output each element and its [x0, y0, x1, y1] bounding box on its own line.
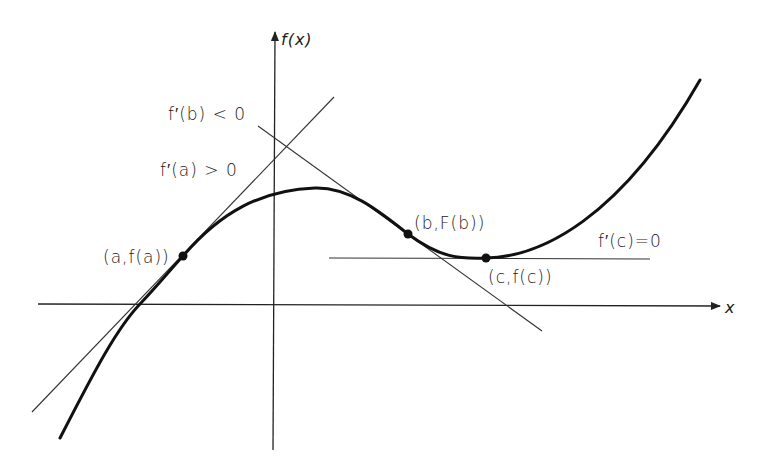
- point-label-b: (b,F(b)): [414, 213, 485, 233]
- point-c: [482, 254, 491, 263]
- tangent-label-c: f′(c)=0: [598, 231, 662, 251]
- point-label-a: (a,f(a)): [103, 247, 170, 267]
- point-b: [404, 230, 413, 239]
- y-axis: [273, 32, 275, 450]
- point-label-c: (c,f(c)): [488, 267, 553, 287]
- tangent-label-a: f′(a) > 0: [160, 160, 238, 180]
- function-diagram: f(x) x f′(b) < 0 f′(a) > 0 f′(c)=0 (a,f(…: [0, 0, 759, 469]
- tangent-label-b: f′(b) < 0: [168, 104, 246, 124]
- x-axis-label: x: [724, 298, 735, 317]
- y-axis-label: f(x): [281, 30, 313, 49]
- point-a: [179, 252, 188, 261]
